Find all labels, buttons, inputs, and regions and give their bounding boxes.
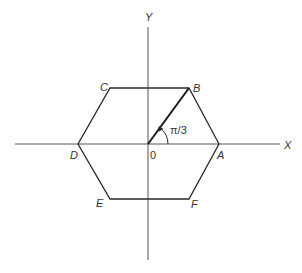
vertex-label-b: B bbox=[193, 82, 200, 94]
vertex-label-f: F bbox=[191, 198, 199, 210]
x-axis-label: X bbox=[283, 139, 292, 151]
hexagon-diagram: X Y 0 A B C D E F π/3 bbox=[0, 0, 302, 273]
angle-arc bbox=[160, 128, 168, 144]
angle-label: π/3 bbox=[170, 124, 187, 136]
origin-label: 0 bbox=[150, 149, 156, 161]
vertex-label-d: D bbox=[70, 149, 78, 161]
vertex-label-c: C bbox=[100, 81, 108, 93]
y-axis-label: Y bbox=[145, 11, 153, 23]
vertex-label-e: E bbox=[96, 197, 104, 209]
vertex-label-a: A bbox=[216, 149, 224, 161]
